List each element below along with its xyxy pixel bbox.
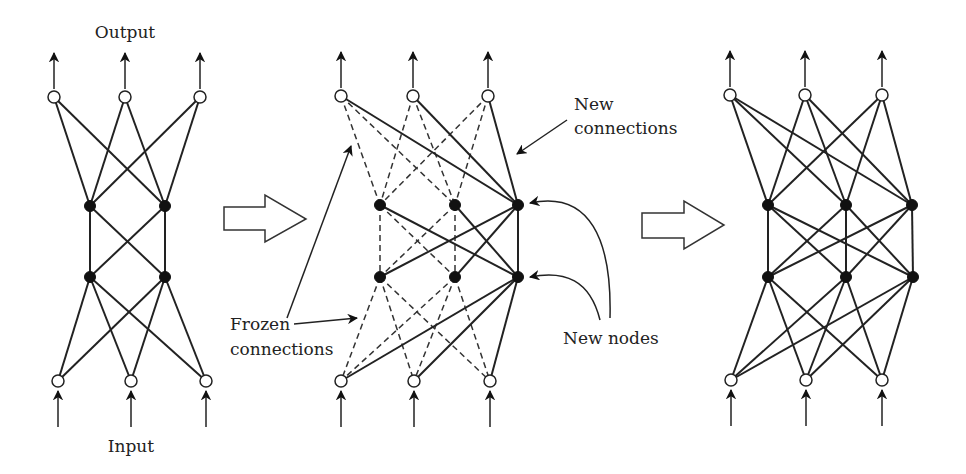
frozen-connection bbox=[413, 96, 455, 205]
new-node-pointer-bottom-icon bbox=[530, 275, 600, 320]
connection bbox=[165, 277, 206, 381]
network-growth-diagram: Output Input New connections Frozen conn… bbox=[0, 0, 966, 474]
edges bbox=[54, 97, 206, 381]
output-node bbox=[194, 91, 206, 103]
new-connections-label-line1: New bbox=[574, 94, 614, 114]
transition-arrow-2-icon bbox=[642, 201, 724, 249]
new-hidden-node bbox=[513, 200, 524, 211]
hidden-node bbox=[763, 200, 774, 211]
output-node bbox=[119, 91, 131, 103]
output-label: Output bbox=[95, 22, 156, 42]
new-connections-pointer-icon bbox=[517, 120, 567, 154]
hidden-node bbox=[841, 272, 852, 283]
frozen-connections-label-line1: Frozen bbox=[230, 314, 290, 334]
edges bbox=[730, 95, 913, 380]
connection bbox=[730, 95, 768, 205]
edges bbox=[341, 96, 518, 381]
growing-network bbox=[335, 52, 524, 427]
hidden-node bbox=[908, 272, 919, 283]
input-node bbox=[408, 375, 420, 387]
hidden-node bbox=[763, 272, 774, 283]
output-node bbox=[407, 90, 419, 102]
hidden-node bbox=[450, 272, 461, 283]
new-node-pointer-top-icon bbox=[530, 201, 610, 318]
new-hidden-node bbox=[513, 272, 524, 283]
hidden-node bbox=[907, 200, 918, 211]
input-node bbox=[800, 374, 812, 386]
input-node bbox=[200, 375, 212, 387]
input-node bbox=[52, 375, 64, 387]
frozen-connections-pointer-right-icon bbox=[294, 318, 357, 324]
output-node bbox=[724, 89, 736, 101]
input-node bbox=[125, 375, 137, 387]
output-node bbox=[335, 90, 347, 102]
connection bbox=[54, 97, 165, 206]
hidden-node bbox=[160, 201, 171, 212]
original-network bbox=[48, 53, 212, 427]
final-network bbox=[724, 51, 919, 426]
input-node bbox=[725, 374, 737, 386]
new-connections-label-line2: connections bbox=[574, 118, 677, 138]
input-label: Input bbox=[108, 436, 154, 456]
input-node bbox=[335, 375, 347, 387]
connection bbox=[730, 95, 846, 205]
hidden-node bbox=[375, 272, 386, 283]
connection bbox=[768, 277, 806, 380]
input-node bbox=[876, 374, 888, 386]
frozen-connections-label-line2: connections bbox=[230, 339, 333, 359]
frozen-connection bbox=[380, 96, 488, 205]
frozen-connection bbox=[341, 277, 455, 381]
frozen-connection bbox=[341, 96, 455, 205]
hidden-node bbox=[450, 200, 461, 211]
output-node bbox=[482, 90, 494, 102]
frozen-connection bbox=[455, 277, 490, 381]
hidden-node bbox=[375, 200, 386, 211]
new-connection bbox=[490, 277, 518, 381]
frozen-connection bbox=[341, 277, 380, 381]
frozen-connections-pointer-up-icon bbox=[287, 146, 351, 318]
output-node bbox=[876, 89, 888, 101]
connection bbox=[731, 277, 846, 380]
hidden-node bbox=[841, 200, 852, 211]
new-nodes-label: New nodes bbox=[563, 328, 659, 348]
io-arrows bbox=[341, 52, 490, 427]
output-node bbox=[48, 91, 60, 103]
connection bbox=[806, 277, 846, 380]
connection bbox=[912, 205, 913, 277]
io-arrows bbox=[730, 51, 882, 426]
frozen-connection bbox=[414, 277, 455, 381]
transition-arrow-1-icon bbox=[224, 195, 306, 242]
hidden-node bbox=[160, 272, 171, 283]
output-node bbox=[799, 89, 811, 101]
hidden-node bbox=[85, 201, 96, 212]
input-node bbox=[484, 375, 496, 387]
frozen-connection bbox=[341, 96, 380, 205]
hidden-node bbox=[85, 272, 96, 283]
